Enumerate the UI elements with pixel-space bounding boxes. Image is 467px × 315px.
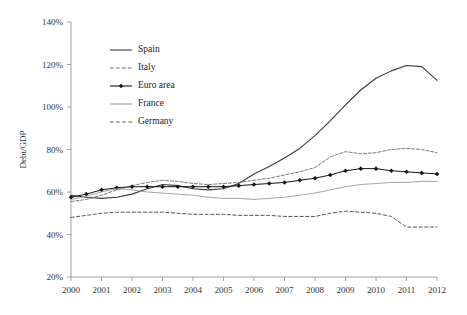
series-marker: [389, 168, 394, 173]
x-tick-label: 2003: [154, 285, 173, 295]
chart-canvas: 140%120%100%80%60%40%20% 200020012002200…: [0, 0, 467, 315]
series-marker: [313, 176, 318, 181]
series-marker: [297, 178, 302, 183]
plot-axes: [71, 22, 437, 277]
chart-legend: SpainItalyEuro areaFranceGermany: [110, 44, 175, 126]
series-marker: [435, 172, 440, 177]
y-axis-title: Debt/GDP: [18, 131, 28, 169]
x-tick-label: 2002: [123, 285, 141, 295]
series-marker: [252, 182, 257, 187]
series-marker: [419, 171, 424, 176]
series-marker: [404, 170, 409, 175]
legend-label: Euro area: [138, 80, 175, 90]
x-tick-label: 2000: [62, 285, 81, 295]
y-tick-label: 80%: [47, 145, 64, 155]
debt-to-gdp-line-chart: 140%120%100%80%60%40%20% 200020012002200…: [0, 0, 467, 315]
x-tick-label: 2009: [337, 285, 356, 295]
series-marker: [328, 173, 333, 178]
series-line: [71, 211, 437, 227]
legend-marker: [119, 84, 124, 89]
x-tick-label: 2006: [245, 285, 264, 295]
data-series-group: [69, 66, 440, 228]
x-tick-label: 2005: [215, 285, 234, 295]
x-tick-label: 2010: [367, 285, 386, 295]
x-tick-label: 2004: [184, 285, 203, 295]
y-tick-label: 40%: [47, 230, 64, 240]
series-italy: [71, 148, 437, 201]
series-marker: [282, 180, 287, 185]
legend-item-germany: Germany: [110, 116, 174, 126]
legend-label: Germany: [138, 116, 174, 126]
legend-item-france: France: [110, 98, 164, 108]
x-tick-label: 2011: [398, 285, 416, 295]
y-tick-label: 60%: [47, 187, 64, 197]
x-axis-ticks: 2000200120022003200420052006200720082009…: [62, 277, 446, 295]
y-axis-ticks: 140%120%100%80%60%40%20%: [42, 17, 71, 282]
legend-item-euro-area: Euro area: [110, 80, 175, 90]
legend-label: Italy: [138, 62, 156, 72]
y-tick-label: 120%: [42, 60, 64, 70]
y-tick-label: 140%: [42, 17, 64, 27]
legend-label: Spain: [138, 44, 160, 54]
x-tick-label: 2001: [93, 285, 111, 295]
legend-item-spain: Spain: [110, 44, 160, 54]
series-marker: [374, 166, 379, 171]
series-germany: [71, 211, 437, 227]
y-tick-label: 20%: [47, 272, 64, 282]
x-tick-label: 2007: [276, 285, 295, 295]
y-tick-label: 100%: [42, 102, 64, 112]
series-marker: [358, 166, 363, 171]
series-line: [71, 148, 437, 201]
x-tick-label: 2012: [428, 285, 446, 295]
x-tick-label: 2008: [306, 285, 325, 295]
series-marker: [206, 184, 211, 189]
legend-label: France: [138, 98, 164, 108]
legend-item-italy: Italy: [110, 62, 156, 72]
series-marker: [267, 181, 272, 186]
series-marker: [343, 168, 348, 173]
